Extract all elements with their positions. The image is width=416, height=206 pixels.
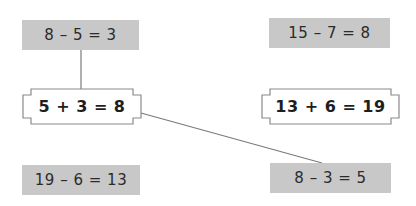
- subtraction-fact-box[interactable]: 15 – 7 = 8: [269, 18, 390, 48]
- subtraction-fact-box[interactable]: 19 – 6 = 13: [22, 165, 140, 195]
- addition-fact-box[interactable]: 5 + 3 = 8: [21, 88, 143, 125]
- subtraction-fact-text: 15 – 7 = 8: [288, 24, 370, 42]
- subtraction-fact-box[interactable]: 8 – 3 = 5: [270, 163, 391, 193]
- subtraction-fact-text: 8 – 5 = 3: [44, 26, 116, 44]
- addition-fact-box[interactable]: 13 + 6 = 19: [260, 88, 401, 125]
- addition-fact-text: 5 + 3 = 8: [21, 88, 143, 125]
- subtraction-fact-text: 19 – 6 = 13: [35, 171, 127, 189]
- addition-fact-text: 13 + 6 = 19: [260, 88, 401, 125]
- subtraction-fact-text: 8 – 3 = 5: [294, 169, 366, 187]
- subtraction-fact-box[interactable]: 8 – 5 = 3: [22, 20, 139, 50]
